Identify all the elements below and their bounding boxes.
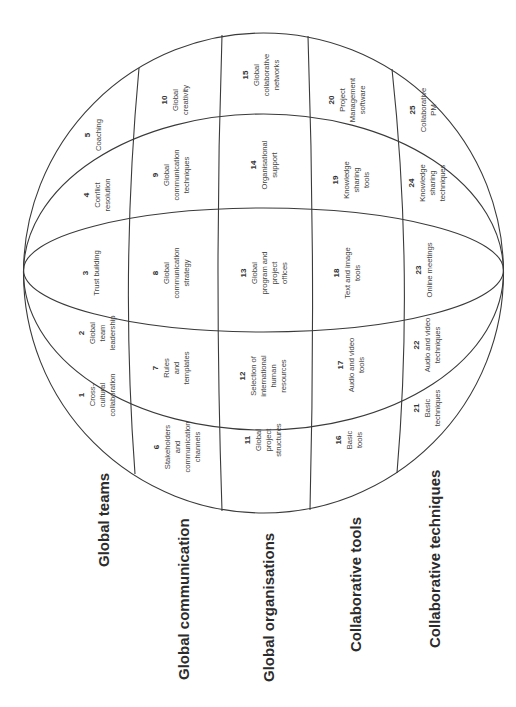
cell-number: 5 <box>83 132 92 137</box>
cell-text-line: Global <box>162 164 171 186</box>
cell-text-line: techniques <box>433 389 442 426</box>
cell-1: 1Cross-culturalcollaboration <box>77 373 117 416</box>
cell-text-line: Collaborative <box>419 88 428 132</box>
cell-text-line: collaboration <box>108 373 117 416</box>
cell-22: 22Audio and videotechniques <box>412 318 442 372</box>
cell-text-line: Text and image <box>343 247 352 299</box>
cell-text-line: Selection of <box>249 355 258 396</box>
cell-11: 11Globalprojectstructures <box>243 423 283 457</box>
cell-25: 25CollaborativePM <box>408 88 438 132</box>
cell-text-line: tools <box>362 172 371 188</box>
cell-text-line: templates <box>182 351 191 384</box>
cell-number: 25 <box>408 105 417 114</box>
cell-number: 1 <box>77 392 86 397</box>
cell-text-line: collaborative <box>262 54 271 97</box>
cell-text-line: Stakeholders <box>163 425 172 470</box>
cell-text-line: Trust building <box>92 250 101 295</box>
cell-text-line: networks <box>272 60 281 91</box>
cell-text-line: and <box>173 441 182 454</box>
cell-text-line: program and <box>260 251 269 294</box>
cell-text-line: Online meetings <box>425 242 434 297</box>
cell-text-line: software <box>358 86 367 115</box>
cell-text-line: Management <box>348 77 357 122</box>
cell-text-line: and <box>172 362 181 375</box>
cell-number: 10 <box>160 95 169 104</box>
row-label-global-communication: Global communication <box>175 518 192 680</box>
cell-7: 7Rulesandtemplates <box>151 351 191 384</box>
cell-17: 17Audio and videotools <box>336 338 366 392</box>
cell-number: 13 <box>239 268 248 277</box>
cell-text-line: offices <box>280 262 289 284</box>
row-label-global-teams: Global teams <box>95 473 112 567</box>
row-label-collaborative-techniques: Collaborative techniques <box>426 470 443 648</box>
cell-14: 14Organisationalsupport <box>249 140 279 189</box>
cell-15: 15Globalcollaborativenetworks <box>241 54 281 97</box>
cell-text-line: techniques <box>182 156 191 193</box>
cell-text-line: Global <box>162 262 171 284</box>
cell-number: 14 <box>249 160 258 169</box>
cell-number: 17 <box>336 360 345 369</box>
cell-6: 6Stakeholdersandcommunicationchannels <box>152 421 202 472</box>
cell-number: 16 <box>334 435 343 444</box>
cell-text-line: Organisational <box>260 140 269 189</box>
cell-8: 8Globalcommunicationstrategy <box>151 247 191 298</box>
cell-text-line: Global <box>250 262 259 284</box>
cell-19: 19Knowledgesharingtools <box>331 161 371 199</box>
cell-text-line: Global <box>254 429 263 451</box>
cell-13: 13Globalprogram andprojectoffices <box>239 251 289 294</box>
cell-text-line: creativity <box>181 85 190 115</box>
row-label-collaborative-tools: Collaborative tools <box>347 517 364 652</box>
cell-number: 18 <box>332 268 341 277</box>
cell-text-line: support <box>270 151 279 177</box>
cell-3: 3Trust building <box>81 250 101 295</box>
cell-text-line: Global <box>171 89 180 111</box>
cell-10: 10Globalcreativity <box>160 85 190 115</box>
sphere-diagram: 1Cross-culturalcollaboration2Globalteaml… <box>0 0 516 707</box>
cell-text-line: leadership <box>108 315 117 350</box>
cell-text-line: techniques <box>433 326 442 363</box>
cell-number: 24 <box>407 178 416 187</box>
cell-text-line: sharing <box>352 168 361 193</box>
cell-text-line: human <box>269 364 278 387</box>
cell-text-line: structures <box>274 423 283 457</box>
cell-text-line: communication <box>172 149 181 200</box>
cell-text-line: team <box>98 325 107 342</box>
cell-text-line: Audio and video <box>423 318 432 372</box>
cell-18: 18Text and imagetools <box>332 247 362 299</box>
cell-number: 11 <box>243 435 252 444</box>
cell-text-line: project <box>264 428 273 452</box>
cell-9: 9Globalcommunicationtechniques <box>151 149 191 200</box>
cell-text-line: resolution <box>103 179 112 212</box>
cell-text-line: international <box>259 355 268 397</box>
cell-text-line: Global <box>88 322 97 344</box>
cell-text-line: Knowledge <box>418 164 427 202</box>
cell-text-line: communication <box>183 421 192 472</box>
cell-text-line: resources <box>279 359 288 393</box>
cell-number: 19 <box>331 175 340 184</box>
cell-text-line: Coaching <box>94 119 103 151</box>
cell-number: 8 <box>151 270 160 275</box>
cell-text-line: Basic <box>423 399 432 418</box>
cell-number: 6 <box>152 444 161 449</box>
cell-number: 7 <box>151 365 160 370</box>
row-labels: Global teams Global communication Global… <box>95 470 443 682</box>
cell-text-line: tools <box>355 432 364 448</box>
row-label-global-organisations: Global organisations <box>260 533 277 682</box>
cell-number: 12 <box>238 371 247 380</box>
cell-text-line: communication <box>172 247 181 298</box>
cell-16: 16Basictools <box>334 431 364 450</box>
cell-text-line: Rules <box>162 358 171 378</box>
cell-text-line: techniques <box>438 164 447 201</box>
cell-21: 21Basictechniques <box>412 389 442 426</box>
cell-number: 15 <box>241 70 250 79</box>
cell-text-line: PM <box>429 104 438 115</box>
cell-text-line: project <box>270 261 279 285</box>
cell-4: 4Conflictresolution <box>82 179 112 212</box>
cell-text-line: Knowledge <box>342 161 351 199</box>
cell-2: 2Globalteamleadership <box>77 315 117 350</box>
cell-text-line: Basic <box>345 431 354 450</box>
cell-number: 23 <box>414 265 423 274</box>
cell-number: 4 <box>82 192 91 197</box>
cells: 1Cross-culturalcollaboration2Globalteaml… <box>77 54 447 473</box>
cell-number: 22 <box>412 340 421 349</box>
